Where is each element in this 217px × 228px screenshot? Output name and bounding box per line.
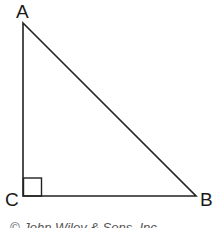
triangle-diagram: A C B © John Wiley & Sons, Inc. <box>0 0 217 228</box>
vertex-label-b: B <box>200 189 213 210</box>
right-angle-marker <box>24 178 42 196</box>
vertex-label-c: C <box>5 189 19 210</box>
copyright-text: © John Wiley & Sons, Inc. <box>10 220 160 228</box>
vertex-label-a: A <box>16 1 29 22</box>
triangle-abc <box>23 23 196 196</box>
